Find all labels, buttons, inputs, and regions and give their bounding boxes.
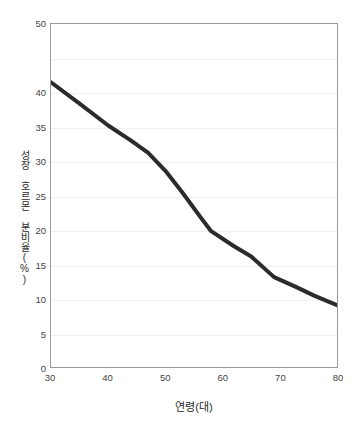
- growth-hormone-line-chart: 성장 호르몬 분비율(%) 051015202530354050 3040506…: [0, 0, 359, 434]
- y-tick-label: 5: [41, 328, 46, 339]
- series-layer: [51, 24, 337, 367]
- x-tick-label: 60: [218, 372, 229, 383]
- x-tick-label: 50: [160, 372, 171, 383]
- x-tick-label: 80: [333, 372, 344, 383]
- x-axis-tick-labels: 304050607080: [50, 372, 338, 388]
- plot-area: [50, 23, 338, 368]
- y-tick-label: 20: [35, 225, 46, 236]
- x-tick-label: 40: [102, 372, 113, 383]
- y-tick-label: 10: [35, 294, 46, 305]
- y-tick-label: 50: [35, 18, 46, 29]
- x-tick-label: 70: [275, 372, 286, 383]
- y-tick-label: 30: [35, 156, 46, 167]
- data-line-growth-hormone: [51, 82, 337, 305]
- y-tick-label: 40: [35, 87, 46, 98]
- x-axis-title: 연령(대): [50, 398, 338, 414]
- y-tick-label: 25: [35, 190, 46, 201]
- y-tick-label: 15: [35, 259, 46, 270]
- y-axis-tick-labels: 051015202530354050: [26, 23, 46, 368]
- x-tick-label: 30: [45, 372, 56, 383]
- y-tick-label: 35: [35, 121, 46, 132]
